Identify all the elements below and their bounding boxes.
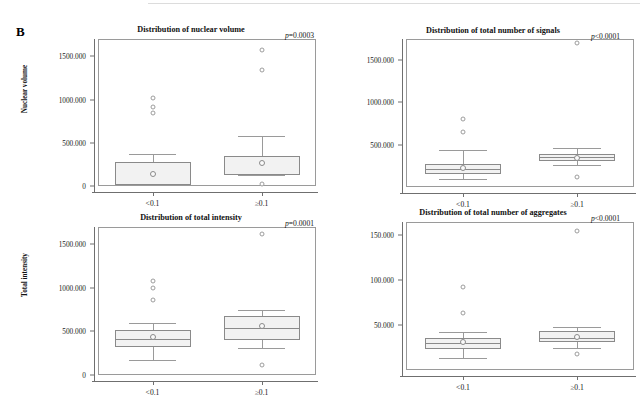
whisker-cap-lower xyxy=(238,175,285,176)
x-tick-mark xyxy=(577,193,578,197)
y-tick-mark xyxy=(90,244,94,245)
x-axis-line xyxy=(400,193,636,194)
whisker-cap-lower xyxy=(553,348,600,349)
y-axis-label: Total intensity xyxy=(21,240,29,310)
whisker-cap-upper xyxy=(238,310,285,311)
y-axis-line xyxy=(402,222,403,376)
y-tick-mark xyxy=(90,375,94,376)
whisker-lower xyxy=(463,349,464,358)
whisker-cap-upper xyxy=(439,332,486,333)
y-tick-label: 500.000 xyxy=(18,138,86,147)
y-tick-label: 0 xyxy=(18,182,86,191)
whisker-upper xyxy=(577,148,578,155)
p-value-annotation: p=0.0003 xyxy=(285,31,314,40)
y-axis-line xyxy=(94,39,95,192)
x-tick-label: <0.1 xyxy=(146,388,160,397)
chart-panel-total-intensity: Distribution of total intensity0500.0001… xyxy=(62,205,320,388)
outlier-point xyxy=(150,105,155,110)
outlier-point xyxy=(575,175,580,180)
y-tick-mark xyxy=(398,60,402,61)
y-axis-line xyxy=(94,227,95,381)
x-tick-mark xyxy=(463,193,464,197)
y-tick-mark xyxy=(90,186,94,187)
outlier-point xyxy=(461,130,466,135)
plot-area xyxy=(98,227,316,375)
y-tick-label: 500.000 xyxy=(326,140,394,149)
p-value-annotation: p<0.0001 xyxy=(591,32,620,41)
whisker-cap-upper xyxy=(129,154,176,155)
x-tick-mark xyxy=(463,376,464,380)
chart-panel-nuclear-volume: Distribution of nuclear volume0500.00010… xyxy=(62,25,320,200)
median-line xyxy=(224,156,300,157)
whisker-cap-lower xyxy=(553,165,600,166)
x-axis-line xyxy=(92,381,318,382)
outlier-point xyxy=(575,41,580,46)
y-tick-mark xyxy=(90,99,94,100)
outlier-point xyxy=(461,117,466,122)
chart-title: Distribution of nuclear volume xyxy=(62,25,320,34)
mean-marker xyxy=(460,339,466,345)
x-tick-label: ≥0.1 xyxy=(570,383,584,392)
x-tick-mark xyxy=(262,192,263,196)
panel-letter-b: B xyxy=(16,24,25,40)
whisker-cap-upper xyxy=(553,327,600,328)
whisker-cap-lower xyxy=(238,348,285,349)
whisker-lower xyxy=(153,347,154,360)
y-tick-label: 50.000 xyxy=(326,321,394,330)
y-axis-label: Nuclear volume xyxy=(21,54,29,124)
outlier-point xyxy=(150,297,155,302)
whisker-cap-lower xyxy=(439,358,486,359)
whisker-cap-lower xyxy=(129,185,176,186)
outlier-point xyxy=(461,310,466,315)
chart-title: Distribution of total intensity xyxy=(62,213,320,222)
x-tick-mark xyxy=(153,381,154,385)
mean-marker xyxy=(259,323,265,329)
y-tick-mark xyxy=(398,144,402,145)
y-tick-label: 0 xyxy=(18,371,86,380)
mean-marker xyxy=(460,165,466,171)
outlier-point xyxy=(150,111,155,116)
whisker-upper xyxy=(262,310,263,317)
x-axis-line xyxy=(92,192,318,193)
chart-panel-total-number-of-aggregates: Distribution of total number of aggregat… xyxy=(358,198,628,388)
chart-title: Distribution of total number of aggregat… xyxy=(358,208,628,217)
outlier-point xyxy=(259,48,264,53)
x-tick-mark xyxy=(262,381,263,385)
outlier-point xyxy=(575,228,580,233)
whisker-cap-upper xyxy=(439,150,486,151)
x-tick-label: <0.1 xyxy=(456,383,470,392)
mean-marker xyxy=(574,155,580,161)
y-tick-mark xyxy=(90,56,94,57)
whisker-upper xyxy=(262,136,263,156)
y-tick-mark xyxy=(398,235,402,236)
x-tick-mark xyxy=(577,376,578,380)
y-tick-mark xyxy=(398,102,402,103)
y-tick-label: 500.000 xyxy=(18,327,86,336)
y-tick-label: 1000.000 xyxy=(326,98,394,107)
y-tick-label: 150.000 xyxy=(326,231,394,240)
header-rule xyxy=(148,3,640,4)
outlier-point xyxy=(575,351,580,356)
x-tick-label: ≥0.1 xyxy=(255,388,269,397)
chart-title: Distribution of total number of signals xyxy=(358,26,628,35)
whisker-lower xyxy=(262,340,263,348)
y-tick-mark xyxy=(90,287,94,288)
outlier-point xyxy=(259,182,264,187)
y-tick-mark xyxy=(398,280,402,281)
outlier-point xyxy=(150,285,155,290)
x-tick-mark xyxy=(153,192,154,196)
outlier-point xyxy=(259,232,264,237)
chart-panel-total-number-of-signals: Distribution of total number of signals5… xyxy=(358,12,628,200)
whisker-upper xyxy=(153,154,154,162)
y-tick-mark xyxy=(398,325,402,326)
outlier-point xyxy=(150,95,155,100)
whisker-cap-upper xyxy=(553,148,600,149)
median-line xyxy=(115,162,191,163)
p-value-annotation: p<0.0001 xyxy=(591,214,620,223)
whisker-cap-lower xyxy=(439,179,486,180)
mean-marker xyxy=(150,334,156,340)
p-value-annotation: p=0.0001 xyxy=(285,219,314,228)
y-tick-label: 100.000 xyxy=(326,276,394,285)
whisker-cap-upper xyxy=(129,323,176,324)
mean-marker xyxy=(574,334,580,340)
